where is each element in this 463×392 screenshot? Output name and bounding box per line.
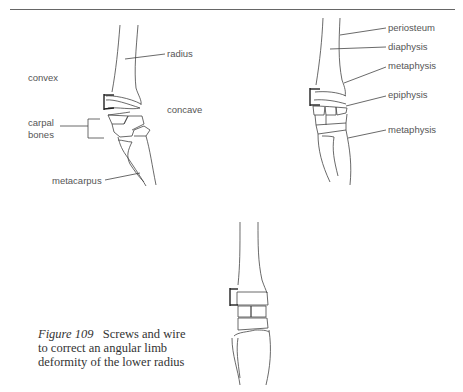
label-carpal-bones-2: bones bbox=[28, 129, 54, 141]
left-limb-drawing bbox=[60, 25, 165, 186]
label-metacarpus: metacarpus bbox=[52, 175, 102, 187]
figure-caption: Figure 109 Screws and wire to correct an… bbox=[38, 327, 188, 369]
label-carpal-bones-1: carpal bbox=[28, 117, 54, 129]
label-concave: concave bbox=[167, 104, 202, 116]
label-metaphysis-upper: metaphysis bbox=[388, 60, 436, 72]
label-periosteum: periosteum bbox=[388, 22, 435, 34]
label-radius: radius bbox=[167, 48, 193, 60]
label-convex: convex bbox=[28, 72, 58, 84]
label-diaphysis: diaphysis bbox=[388, 41, 428, 53]
right-limb-drawing bbox=[310, 18, 386, 185]
figure-number: Figure 109 bbox=[38, 327, 93, 341]
label-epiphysis: epiphysis bbox=[388, 89, 428, 101]
bottom-limb-drawing bbox=[230, 222, 270, 385]
label-metaphysis-lower: metaphysis bbox=[388, 124, 436, 136]
